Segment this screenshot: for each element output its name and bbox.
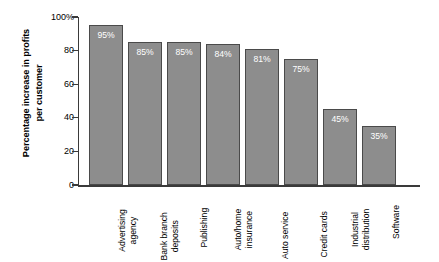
y-axis-tick-mark	[72, 50, 78, 51]
x-axis-label-slot: Auto/homeinsurance	[206, 188, 240, 262]
bar: 95%	[89, 25, 123, 185]
y-axis-tick-label: 60	[40, 80, 74, 89]
x-axis-label-slot: Publishing	[167, 188, 201, 262]
x-axis-label-slot: Bank branchdeposits	[128, 188, 162, 262]
x-axis-label-slot: Software	[362, 188, 396, 262]
bar-value-label: 95%	[90, 31, 122, 40]
y-axis-tick-mark	[72, 151, 78, 152]
bar-chart: Percentage increase in profits per custo…	[0, 0, 439, 262]
bar-value-label: 85%	[129, 48, 161, 57]
bar: 81%	[245, 49, 279, 185]
y-axis-title-line-1: Percentage increase in profits	[20, 0, 33, 188]
bar-value-label: 81%	[246, 55, 278, 64]
bar-value-label: 45%	[324, 115, 356, 124]
y-axis-tick-labels: 020406080100%	[36, 0, 74, 262]
x-axis-label-slot: Advertisingagency	[89, 188, 123, 262]
bar: 45%	[323, 109, 357, 185]
y-axis-tick-label: 0	[40, 181, 74, 190]
bar-value-label: 85%	[168, 48, 200, 57]
x-axis-category-label-line: Auto/home	[233, 209, 244, 251]
bar: 85%	[128, 42, 162, 185]
y-axis-tick-label: 80	[40, 46, 74, 55]
x-axis-category-label: Software	[391, 205, 402, 239]
x-axis-line	[78, 185, 420, 187]
x-axis-category-labels: AdvertisingagencyBank branchdepositsPubl…	[79, 188, 420, 262]
bar: 35%	[362, 126, 396, 185]
x-axis-label-slot: Industrialdistribution	[323, 188, 357, 262]
y-axis-tick-label: 20	[40, 147, 74, 156]
plot-area: 95%85%85%84%81%75%45%35%	[79, 17, 420, 185]
x-axis-label-slot: Credit cards	[284, 188, 318, 262]
bar-value-label: 75%	[285, 65, 317, 74]
y-axis-tick-mark	[72, 84, 78, 85]
x-axis-category-label-line: Advertising	[117, 209, 128, 252]
y-axis-tick-label: 40	[40, 113, 74, 122]
x-axis-category-label-line: Industrial	[350, 209, 361, 251]
bar-value-label: 35%	[363, 132, 395, 141]
y-axis-tick-mark	[72, 117, 78, 118]
x-axis-label-slot: Auto service	[245, 188, 279, 262]
x-axis-category-label-line: Software	[391, 205, 402, 239]
bar: 84%	[206, 44, 240, 185]
y-axis-tick-mark	[72, 184, 78, 185]
y-axis-tick-label: 100%	[40, 13, 74, 22]
bar: 85%	[167, 42, 201, 185]
y-axis-tick-mark	[72, 16, 78, 17]
bar-value-label: 84%	[207, 50, 239, 59]
bar: 75%	[284, 59, 318, 185]
